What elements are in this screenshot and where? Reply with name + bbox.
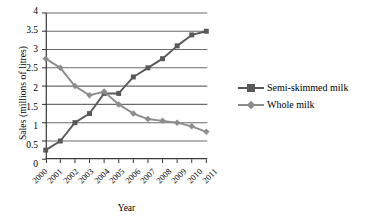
plot-svg (41, 12, 212, 165)
x-axis-tick-labels: 2000200120022003200420052006200720082009… (41, 165, 221, 200)
data-point-marker-square (160, 56, 165, 61)
legend-marker (247, 84, 255, 92)
legend-label: Whole milk (267, 99, 315, 110)
plot-area (41, 12, 212, 165)
legend-swatch-square-icon (238, 82, 264, 94)
y-tick-label: 3.5 (14, 26, 38, 36)
data-point-marker-square (175, 43, 180, 48)
data-point-marker-square (116, 91, 121, 96)
x-axis-title: Year (41, 203, 212, 213)
legend-swatch-diamond-icon (238, 99, 264, 111)
y-tick-label: 2 (14, 84, 38, 94)
data-point-marker-square (87, 111, 92, 116)
y-tick-label: 1.5 (14, 103, 38, 113)
data-point-marker-diamond (145, 116, 151, 123)
data-point-marker-square (204, 29, 209, 34)
y-tick-label: 4 (14, 7, 38, 17)
data-point-marker-square (145, 65, 150, 70)
y-tick-label: 1 (14, 122, 38, 132)
y-tick-label: 2.5 (14, 64, 38, 74)
data-point-marker-diamond (174, 119, 180, 126)
legend-item[interactable]: Semi-skimmed milk (238, 79, 380, 96)
data-point-marker-square (72, 120, 77, 125)
data-point-marker-square (189, 32, 194, 37)
series-line-2 (46, 59, 207, 132)
y-tick-label: 3 (14, 45, 38, 55)
y-tick-label: 0.5 (14, 141, 38, 151)
line-chart: Sales (millions of litres) 00.511.522.53… (0, 0, 382, 223)
legend-marker (247, 100, 255, 108)
legend-label: Semi-skimmed milk (267, 82, 348, 93)
legend-item[interactable]: Whole milk (238, 96, 380, 113)
data-point-marker-square (131, 74, 136, 79)
y-tick-label: 0 (14, 160, 38, 170)
chart-legend: Semi-skimmed milkWhole milk (238, 79, 380, 113)
data-point-marker-diamond (203, 129, 209, 136)
data-point-marker-diamond (189, 123, 195, 130)
data-point-marker-square (58, 138, 63, 143)
data-point-marker-square (43, 148, 48, 153)
